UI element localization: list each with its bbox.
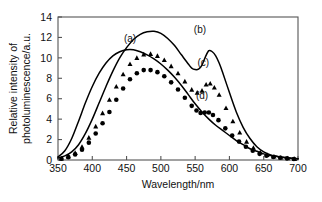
marker-circle bbox=[250, 149, 255, 154]
marker-circle bbox=[216, 118, 221, 123]
marker-triangle bbox=[155, 53, 160, 58]
marker-triangle bbox=[230, 119, 235, 124]
marker-circle bbox=[230, 133, 235, 138]
marker-circle bbox=[223, 126, 228, 131]
curve-annotation-c: (c) bbox=[198, 57, 210, 68]
marker-circle bbox=[80, 147, 85, 152]
curve-annotation-a: (a) bbox=[124, 33, 136, 44]
marker-circle bbox=[87, 140, 92, 145]
y-axis-tick-label: 4 bbox=[46, 113, 52, 125]
marker-circle bbox=[292, 157, 297, 162]
marker-triangle bbox=[114, 84, 119, 89]
marker-triangle bbox=[182, 79, 187, 84]
marker-triangle bbox=[148, 51, 153, 56]
y-axis-tick-label: 6 bbox=[46, 92, 52, 104]
marker-circle bbox=[93, 131, 98, 136]
curve-path bbox=[58, 31, 298, 159]
y-axis-tick-label: 10 bbox=[40, 52, 52, 64]
x-axis-tick-label: 600 bbox=[221, 162, 239, 174]
marker-circle bbox=[194, 108, 199, 113]
y-axis-tick-label: 12 bbox=[40, 31, 52, 43]
x-axis-title: Wavelength/nm bbox=[142, 178, 215, 190]
x-axis-tick-label: 500 bbox=[152, 162, 170, 174]
marker-triangle bbox=[189, 87, 194, 92]
series-a bbox=[58, 49, 298, 158]
y-axis-title-line: Relative intensity of bbox=[7, 43, 19, 134]
marker-circle bbox=[114, 97, 119, 102]
marker-triangle bbox=[224, 105, 229, 110]
marker-triangle bbox=[128, 61, 133, 66]
curve-layer bbox=[58, 31, 298, 161]
marker-circle bbox=[128, 77, 133, 82]
marker-triangle bbox=[169, 64, 174, 69]
marker-circle bbox=[264, 153, 269, 158]
marker-circle bbox=[155, 70, 160, 75]
marker-circle bbox=[135, 71, 140, 76]
x-axis-tick-label: 650 bbox=[255, 162, 273, 174]
marker-triangle bbox=[237, 130, 242, 135]
chart-canvas: 02468101214350400450500550600650700Wavel… bbox=[0, 0, 322, 202]
marker-circle bbox=[198, 111, 203, 116]
marker-triangle bbox=[217, 92, 222, 97]
marker-circle bbox=[271, 155, 276, 160]
marker-circle bbox=[73, 152, 78, 157]
marker-triangle bbox=[93, 124, 98, 129]
marker-circle bbox=[207, 110, 212, 115]
marker-triangle bbox=[134, 55, 139, 60]
marker-triangle bbox=[208, 81, 213, 86]
marker-triangle bbox=[121, 72, 126, 77]
series-c bbox=[59, 51, 297, 161]
photoluminescence-spectra-figure: 02468101214350400450500550600650700Wavel… bbox=[0, 0, 322, 202]
marker-circle bbox=[211, 113, 216, 118]
y-axis-title-line: photoluminescence/a.u. bbox=[20, 33, 32, 144]
x-axis-tick-label: 450 bbox=[118, 162, 136, 174]
curve-path bbox=[58, 49, 298, 158]
series-b bbox=[58, 31, 298, 159]
marker-triangle bbox=[107, 97, 112, 102]
marker-circle bbox=[202, 110, 207, 115]
curve-annotation-b: (b) bbox=[194, 24, 206, 35]
marker-circle bbox=[66, 155, 71, 160]
marker-circle bbox=[183, 95, 188, 100]
marker-circle bbox=[285, 156, 290, 161]
x-axis-tick-label: 700 bbox=[289, 162, 307, 174]
marker-circle bbox=[244, 144, 249, 149]
marker-circle bbox=[107, 110, 112, 115]
y-axis-tick-label: 14 bbox=[40, 11, 52, 23]
marker-triangle bbox=[100, 111, 105, 116]
marker-triangle bbox=[86, 135, 91, 140]
marker-circle bbox=[189, 104, 194, 109]
y-axis-tick-label: 8 bbox=[46, 72, 52, 84]
x-axis-tick-label: 550 bbox=[186, 162, 204, 174]
marker-circle bbox=[237, 139, 242, 144]
marker-circle bbox=[176, 87, 181, 92]
x-axis-tick-label: 400 bbox=[84, 162, 102, 174]
y-axis-tick-label: 2 bbox=[46, 133, 52, 145]
marker-circle bbox=[148, 68, 153, 73]
marker-circle bbox=[59, 156, 64, 161]
marker-circle bbox=[169, 80, 174, 85]
marker-circle bbox=[162, 74, 167, 79]
curve-annotation-d: (d) bbox=[196, 90, 208, 101]
marker-circle bbox=[100, 121, 105, 126]
marker-triangle bbox=[204, 82, 209, 87]
marker-triangle bbox=[162, 57, 167, 62]
marker-circle bbox=[141, 68, 146, 73]
marker-circle bbox=[121, 86, 126, 91]
marker-circle bbox=[278, 155, 283, 160]
marker-triangle bbox=[176, 71, 181, 76]
marker-triangle bbox=[244, 139, 249, 144]
marker-triangle bbox=[212, 85, 217, 90]
axis-layer: 02468101214350400450500550600650700Wavel… bbox=[7, 11, 307, 190]
marker-circle bbox=[257, 152, 262, 157]
x-axis-tick-label: 350 bbox=[49, 162, 67, 174]
